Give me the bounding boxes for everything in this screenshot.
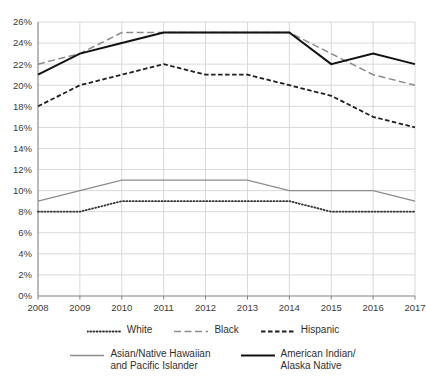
y-axis-tick-label: 6% xyxy=(18,227,32,238)
line-chart: 0%2%4%6%8%10%12%14%16%18%20%22%24%26%200… xyxy=(0,0,426,389)
y-axis-tick-label: 22% xyxy=(13,59,33,70)
legend-label-white: White xyxy=(127,324,153,336)
y-axis-tick-label: 14% xyxy=(13,143,33,154)
legend-label-american-indian-alaska-native: American Indian/ Alaska Native xyxy=(281,348,356,372)
x-axis-tick-label: 2014 xyxy=(279,302,300,313)
y-axis-tick-label: 8% xyxy=(18,206,32,217)
legend-swatch-hispanic xyxy=(261,326,295,337)
x-axis-tick-label: 2013 xyxy=(237,302,258,313)
x-axis-tick-label: 2016 xyxy=(363,302,384,313)
x-axis-tick-label: 2009 xyxy=(69,302,90,313)
legend-swatch-american-indian-alaska-native xyxy=(241,350,275,361)
y-axis-tick-label: 18% xyxy=(13,101,33,112)
legend-item-asian-nhpi: Asian/Native Hawaiian and Pacific Island… xyxy=(70,348,210,372)
legend-swatch-black xyxy=(174,326,208,337)
y-axis-tick-label: 4% xyxy=(18,248,32,259)
y-axis-tick-label: 0% xyxy=(18,290,32,301)
legend-swatch-asian-nhpi xyxy=(70,350,104,361)
y-axis-tick-label: 12% xyxy=(13,164,33,175)
x-axis-tick-label: 2010 xyxy=(111,302,132,313)
legend-row-secondary: Asian/Native Hawaiian and Pacific Island… xyxy=(0,348,426,372)
legend-item-black: Black xyxy=(174,324,238,337)
chart-legend: White Black Hispanic Asian/Native Hawaii… xyxy=(0,322,426,372)
legend-swatch-white xyxy=(87,326,121,337)
legend-label-hispanic: Hispanic xyxy=(301,324,339,336)
x-axis-tick-label: 2008 xyxy=(27,302,48,313)
y-axis-tick-label: 24% xyxy=(13,37,33,48)
legend-label-black: Black xyxy=(214,324,238,336)
chart-canvas: 0%2%4%6%8%10%12%14%16%18%20%22%24%26%200… xyxy=(0,0,426,320)
x-axis-tick-label: 2015 xyxy=(321,302,342,313)
plot-area: 0%2%4%6%8%10%12%14%16%18%20%22%24%26%200… xyxy=(0,0,426,320)
y-axis-tick-label: 10% xyxy=(13,185,33,196)
legend-item-hispanic: Hispanic xyxy=(261,324,339,337)
legend-row-primary: White Black Hispanic xyxy=(0,324,426,337)
x-axis-tick-label: 2017 xyxy=(404,302,425,313)
x-axis-tick-label: 2011 xyxy=(153,302,173,313)
y-axis-tick-label: 16% xyxy=(13,122,33,133)
y-axis-tick-label: 2% xyxy=(18,269,32,280)
legend-item-american-indian-alaska-native: American Indian/ Alaska Native xyxy=(241,348,356,372)
series-line-2 xyxy=(38,64,415,127)
series-line-4 xyxy=(38,33,415,75)
series-line-1 xyxy=(38,33,415,86)
legend-item-white: White xyxy=(87,324,153,337)
series-line-0 xyxy=(38,201,415,212)
y-axis-tick-label: 26% xyxy=(13,16,33,27)
y-axis-tick-label: 20% xyxy=(13,80,33,91)
x-axis-tick-label: 2012 xyxy=(195,302,216,313)
legend-label-asian-nhpi: Asian/Native Hawaiian and Pacific Island… xyxy=(110,348,210,372)
